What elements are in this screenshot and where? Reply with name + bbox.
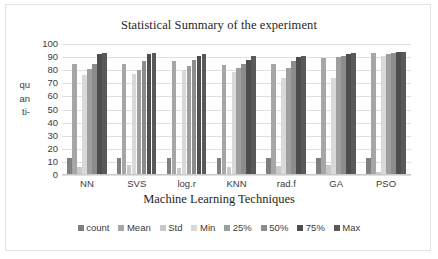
bar[interactable]: [147, 54, 152, 175]
chart-legend: countMeanStdMin25%50%75%Max: [0, 222, 438, 233]
bar[interactable]: [167, 158, 172, 175]
legend-entry[interactable]: count: [78, 222, 110, 233]
legend-entry[interactable]: 50%: [261, 222, 289, 233]
bar[interactable]: [122, 64, 127, 175]
legend-label: Max: [342, 222, 360, 233]
bar[interactable]: [291, 61, 296, 175]
legend-label: 25%: [233, 222, 252, 233]
legend-swatch: [191, 225, 197, 231]
y-axis-tick-label: 50: [47, 105, 58, 115]
legend-label: count: [86, 222, 109, 233]
legend-swatch: [118, 225, 124, 231]
legend-label: Mean: [127, 222, 151, 233]
legend-entry[interactable]: 75%: [297, 222, 325, 233]
bar[interactable]: [246, 60, 251, 175]
bar[interactable]: [97, 54, 102, 175]
bar[interactable]: [117, 158, 122, 175]
bar[interactable]: [142, 61, 147, 175]
bar[interactable]: [386, 54, 391, 175]
y-axis-tick-label: 90: [47, 52, 58, 62]
bar[interactable]: [217, 158, 222, 175]
bar[interactable]: [301, 56, 306, 175]
bar[interactable]: [87, 69, 92, 175]
bar[interactable]: [197, 56, 202, 175]
bar[interactable]: [222, 65, 227, 175]
y-axis-title-line: qu: [4, 78, 30, 92]
x-axis-tick-label: rad.f: [261, 178, 311, 189]
bar-group: [117, 44, 157, 175]
bar[interactable]: [351, 53, 356, 175]
y-axis-title: quanti-: [4, 78, 30, 119]
bar[interactable]: [232, 72, 237, 175]
x-axis-title: Machine Learning Techniques: [0, 192, 438, 207]
y-axis-title-line: an: [4, 92, 30, 106]
bar[interactable]: [281, 78, 286, 175]
legend-label: 75%: [306, 222, 325, 233]
bar[interactable]: [381, 56, 386, 175]
plot-area: [62, 44, 411, 175]
bar[interactable]: [401, 52, 406, 175]
legend-entry[interactable]: Std: [160, 222, 183, 233]
bar[interactable]: [391, 53, 396, 175]
bar[interactable]: [266, 158, 271, 175]
y-axis-tick-label: 10: [47, 157, 58, 167]
legend-swatch: [78, 225, 84, 231]
bar-group: [366, 44, 406, 175]
x-axis-tick-label: KNN: [212, 178, 262, 189]
bar[interactable]: [341, 56, 346, 175]
bar-group: [167, 44, 207, 175]
legend-swatch: [160, 225, 166, 231]
bar[interactable]: [236, 68, 241, 175]
bar[interactable]: [296, 57, 301, 175]
y-axis-tick-label: 0: [53, 170, 58, 180]
bar[interactable]: [316, 158, 321, 175]
bar[interactable]: [182, 70, 187, 175]
bar[interactable]: [321, 58, 326, 175]
legend-swatch: [261, 225, 267, 231]
bar[interactable]: [137, 70, 142, 175]
bar[interactable]: [172, 61, 177, 175]
y-axis-tick-labels: 1009080706050403020100: [30, 38, 58, 175]
y-axis-tick-label: 100: [42, 39, 58, 49]
legend-entry[interactable]: Max: [334, 222, 360, 233]
bar[interactable]: [92, 64, 97, 175]
y-axis-tick-label: 30: [47, 131, 58, 141]
gridline: [62, 175, 411, 176]
legend-entry[interactable]: Min: [191, 222, 215, 233]
y-axis-tick-label: 70: [47, 78, 58, 88]
legend-entry[interactable]: Mean: [118, 222, 150, 233]
bar[interactable]: [187, 66, 192, 175]
chart-title: Statistical Summary of the experiment: [0, 18, 438, 33]
bar-group: [217, 44, 257, 175]
bar[interactable]: [132, 74, 137, 175]
bar[interactable]: [396, 52, 401, 175]
chart-container: Statistical Summary of the experiment qu…: [0, 0, 438, 259]
bar[interactable]: [67, 158, 72, 175]
bar[interactable]: [202, 54, 207, 175]
x-axis-tick-label: SVS: [112, 178, 162, 189]
bar[interactable]: [336, 57, 341, 175]
bar[interactable]: [72, 64, 77, 175]
bar[interactable]: [366, 158, 371, 175]
bar[interactable]: [346, 54, 351, 175]
bar[interactable]: [286, 68, 291, 175]
legend-entry[interactable]: 25%: [224, 222, 252, 233]
bar[interactable]: [251, 56, 256, 175]
bar[interactable]: [192, 60, 197, 175]
bar-group: [316, 44, 356, 175]
bar[interactable]: [331, 78, 336, 175]
y-axis-title-line: ti-: [4, 105, 30, 119]
bar[interactable]: [102, 53, 107, 175]
x-axis-line: [62, 174, 411, 175]
bar[interactable]: [152, 53, 157, 175]
bar[interactable]: [82, 75, 87, 175]
bar[interactable]: [241, 64, 246, 175]
bar[interactable]: [271, 64, 276, 175]
legend-swatch: [224, 225, 230, 231]
x-axis-tick-label: PSO: [361, 178, 411, 189]
legend-label: 50%: [269, 222, 288, 233]
bar[interactable]: [371, 53, 376, 175]
legend-label: Std: [168, 222, 182, 233]
legend-label: Min: [200, 222, 215, 233]
y-axis-tick-label: 80: [47, 65, 58, 75]
